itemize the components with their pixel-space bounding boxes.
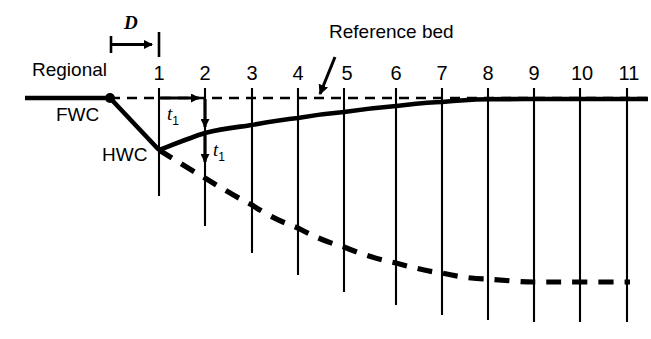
throw-lower-label: t1 — [213, 140, 225, 163]
fwc-rising-limb — [159, 99, 648, 150]
hwc-dashed-curve — [159, 150, 630, 282]
well-number-1: 1 — [153, 63, 164, 83]
hwc-label: HWC — [102, 145, 147, 164]
fwc-fault-segment — [110, 98, 159, 150]
well-number-6: 6 — [390, 63, 401, 83]
reference-bed-leader-arrow — [320, 57, 335, 94]
well-number-8: 8 — [482, 63, 493, 83]
well-number-11: 11 — [619, 63, 640, 83]
cross-section-svg — [0, 0, 651, 339]
reference-bed-label: Reference bed — [329, 22, 454, 41]
well-number-4: 4 — [292, 63, 303, 83]
throw-upper-subscript: 1 — [172, 114, 179, 128]
diagram-canvas: Regional FWC HWC Reference bed D t1 t1 1… — [0, 0, 651, 339]
throw-lower-subscript: 1 — [218, 150, 225, 164]
displacement-label: D — [124, 13, 138, 32]
well-number-5: 5 — [341, 63, 352, 83]
well-lines-group — [159, 88, 627, 322]
well-number-2: 2 — [199, 63, 210, 83]
well-number-3: 3 — [246, 63, 257, 83]
well-number-10: 10 — [571, 63, 593, 83]
displacement-measure-group — [111, 32, 159, 57]
regional-label: Regional — [32, 60, 107, 79]
throw-upper-label: t1 — [167, 104, 179, 127]
fwc-label: FWC — [56, 105, 99, 124]
well-number-9: 9 — [528, 63, 539, 83]
well-number-7: 7 — [436, 63, 447, 83]
